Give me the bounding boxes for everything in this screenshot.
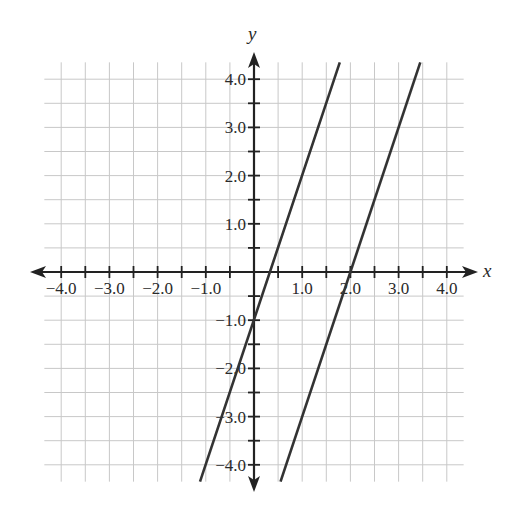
y-tick-label: 4.0 (225, 70, 246, 89)
x-tick-label: −2.0 (142, 279, 173, 298)
x-tick-label: 1.0 (292, 279, 313, 298)
x-axis-label: x (482, 260, 492, 281)
y-tick-label: −1.0 (215, 311, 246, 330)
y-tick-label: 3.0 (225, 118, 246, 137)
x-tick-labels: −4.0−3.0−2.0−1.01.02.03.04.0 (46, 279, 458, 298)
y-tick-label: 2.0 (225, 167, 246, 186)
axes (30, 52, 478, 492)
y-axis-label: y (246, 23, 257, 44)
y-tick-label: 1.0 (225, 215, 246, 234)
x-tick-label: −4.0 (46, 279, 77, 298)
coordinate-plane: −4.0−3.0−2.0−1.01.02.03.04.0 4.03.02.01.… (0, 0, 518, 518)
x-tick-label: −3.0 (94, 279, 125, 298)
x-tick-label: −1.0 (190, 279, 221, 298)
y-tick-label: −2.0 (215, 359, 246, 378)
x-tick-label: 3.0 (388, 279, 409, 298)
y-tick-label: −4.0 (215, 456, 246, 475)
x-tick-label: 4.0 (436, 279, 457, 298)
